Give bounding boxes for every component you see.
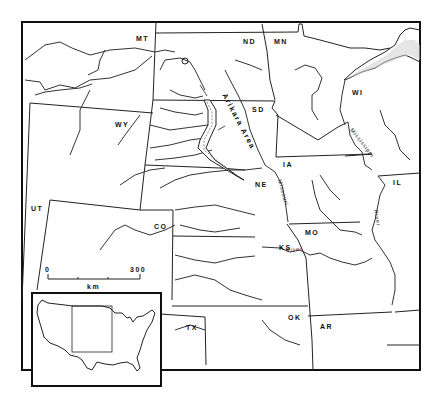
state-label-tx: TX (186, 324, 198, 331)
border-wy-sd (145, 100, 153, 165)
border-nd-mn (262, 24, 275, 100)
border-wy-co (50, 165, 145, 210)
river-nd-3 (235, 60, 262, 70)
border-ar-south (395, 310, 420, 312)
river-mt-1 (25, 42, 175, 60)
state-label-nd: ND (243, 38, 256, 45)
scale-bar: 0 300 km (45, 266, 146, 290)
river-ks-arkansas (175, 255, 255, 263)
state-label-wy: WY (115, 121, 129, 128)
river-ia-2 (320, 175, 340, 200)
river-mn (295, 65, 322, 120)
river-wi (340, 80, 345, 125)
state-label-ok: OK (288, 314, 302, 321)
border-mo-ar (308, 312, 392, 316)
border-ne-ks (173, 236, 255, 237)
border-il (378, 173, 420, 176)
river-ok-red (262, 320, 300, 345)
river-wy-1 (70, 90, 90, 155)
river-wy-2 (118, 115, 140, 145)
state-label-ut: UT (31, 205, 43, 212)
border-tx (160, 314, 206, 365)
river-sd-1 (160, 108, 203, 115)
state-label-co: CO (154, 223, 168, 230)
border-nd-sd (153, 100, 275, 101)
river-platte-north (160, 168, 262, 188)
border-ia-mo (289, 222, 360, 224)
inset-map (32, 293, 161, 386)
river-label-mississippi-river: River (373, 209, 382, 227)
border-ks-mo (287, 224, 306, 258)
arrow-east (218, 126, 225, 130)
river-nd-2 (170, 90, 203, 98)
state-label-sd: SD (252, 106, 265, 113)
border-co-ks (172, 210, 173, 300)
state-label-wi: WI (352, 89, 364, 96)
state-label-ne: NE (255, 181, 268, 188)
river-ne-republican (175, 205, 255, 215)
state-label-il: IL (393, 179, 402, 186)
inset-frame (32, 293, 161, 386)
state-label-mt: MT (136, 35, 149, 42)
border-mn-wi (276, 115, 348, 140)
river-ok-canadian (175, 275, 262, 300)
border-sd-ne (145, 165, 245, 170)
border-ok-ar (306, 258, 313, 370)
river-label-missouri-river: River (286, 246, 303, 253)
border-mt-wy (30, 103, 153, 113)
river-sd-3 (150, 138, 205, 148)
border-mn-north (298, 24, 390, 50)
river-ia (312, 180, 362, 235)
border-west-edge (22, 103, 30, 300)
river-sd-2 (150, 125, 208, 130)
river-wi-2 (380, 110, 410, 160)
lake-superior (344, 28, 420, 80)
river-label-missouri: Missouri (277, 179, 290, 207)
border-canada (156, 32, 298, 33)
state-label-ar: AR (320, 323, 333, 330)
map-canvas: Arikara Area MT ND MN WI SD WY IA IL NE … (0, 0, 440, 403)
scale-end-label: 300 (130, 266, 146, 273)
scale-unit-label: km (87, 283, 100, 290)
river-ks-1 (180, 225, 240, 232)
scale-start-label: 0 (45, 266, 50, 273)
border-mt-nd (153, 22, 156, 100)
state-label-mn: MN (274, 38, 288, 45)
state-label-ia: IA (283, 161, 293, 168)
border-sd-mn (272, 101, 278, 157)
state-label-mo: MO (305, 229, 319, 236)
river-wy-platte (120, 168, 165, 185)
river-mississippi-lower (372, 176, 395, 305)
